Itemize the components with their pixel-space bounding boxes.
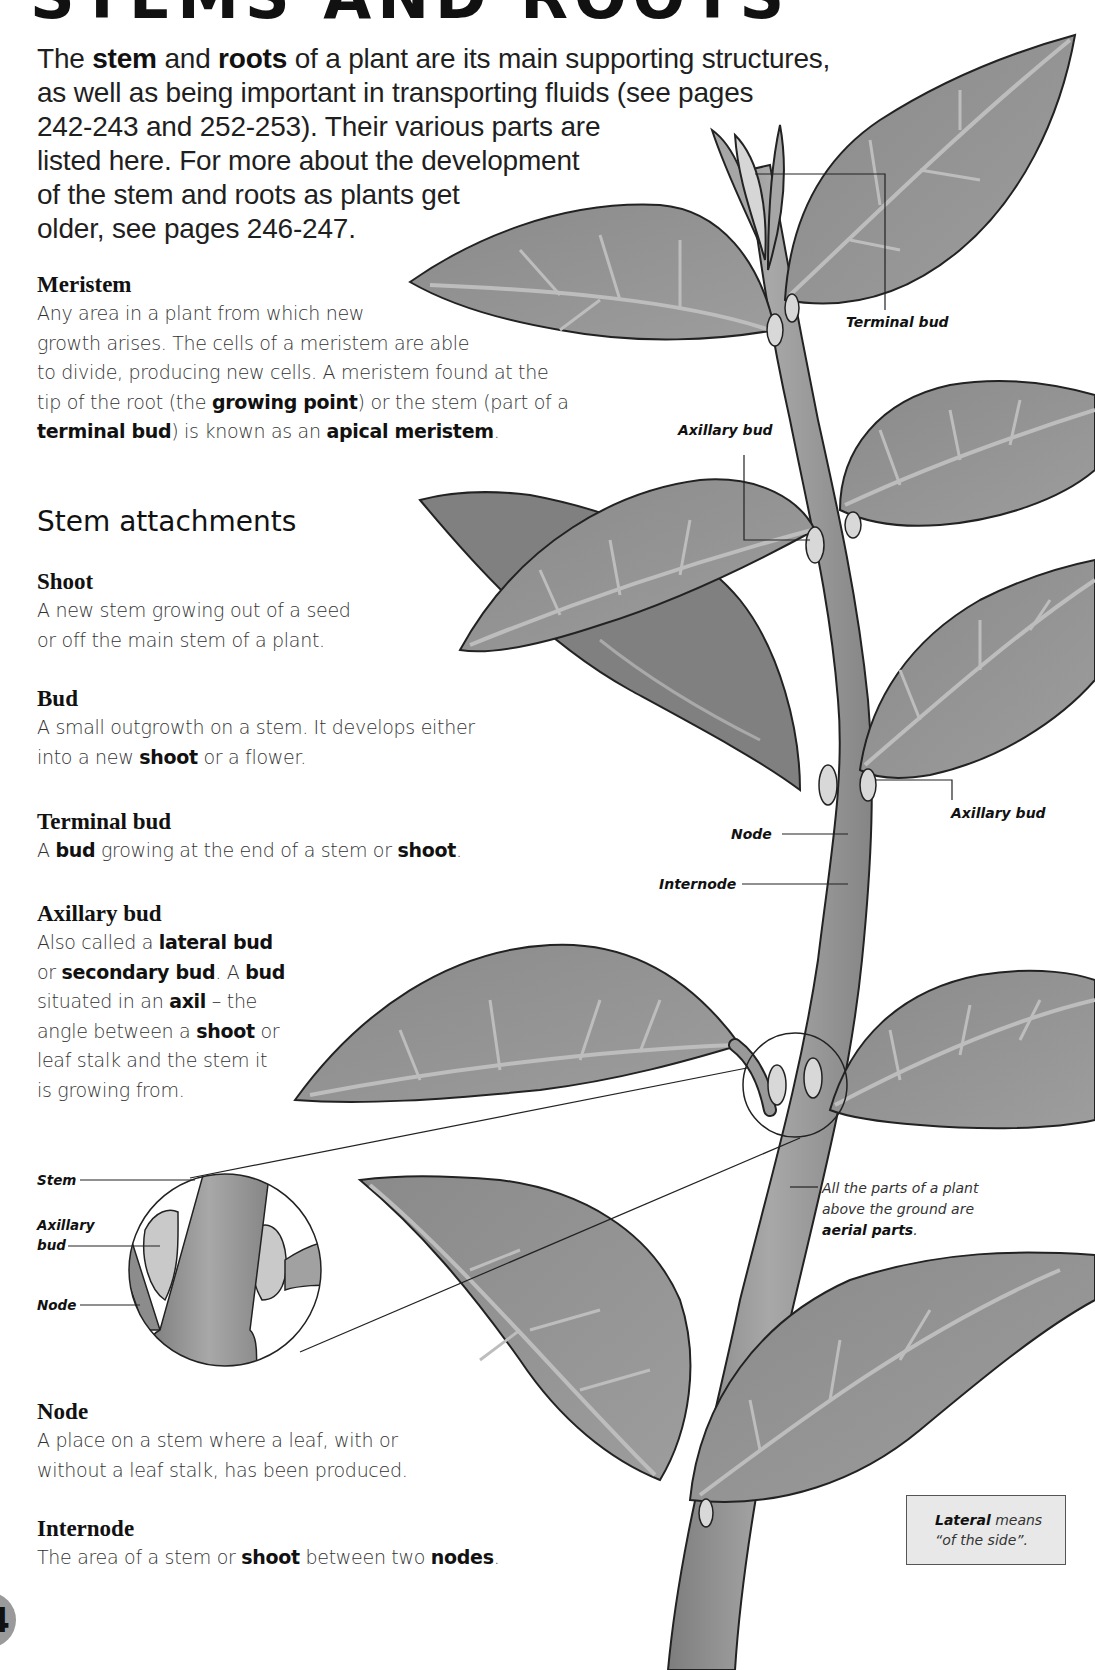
text-run: The [37, 43, 92, 74]
text-run: . [494, 420, 500, 442]
def-line: is growing from. [37, 1076, 285, 1106]
text-run: . A [215, 961, 245, 983]
bold-term: bud [245, 961, 285, 983]
bold-term: shoot [139, 746, 198, 768]
bold-term: growing point [212, 391, 358, 413]
text-run: or [37, 961, 62, 983]
text-run: ) is known as an [171, 420, 326, 442]
intro-line: 242-243 and 252-253). Their various part… [37, 110, 917, 144]
term-title: Shoot [37, 568, 351, 596]
text-run: or [255, 1020, 280, 1042]
section-title: Stem attachments [37, 505, 296, 538]
def-line: Any area in a plant from which new [37, 299, 569, 329]
caption-line: All the parts of a plant [822, 1178, 978, 1199]
note-line: “of the side”. [935, 1530, 1065, 1550]
aerial-parts-caption: All the parts of a plant above the groun… [822, 1178, 978, 1241]
label-line: bud [37, 1235, 95, 1255]
term-bud: Bud A small outgrowth on a stem. It deve… [37, 685, 475, 772]
bold-term: lateral bud [159, 931, 273, 953]
bold-term: shoot [196, 1020, 255, 1042]
term-node: Node A place on a stem where a leaf, wit… [37, 1398, 407, 1485]
term-title: Terminal bud [37, 808, 462, 836]
leaf-left-lower [295, 945, 770, 1110]
term-definition: Any area in a plant from which new growt… [37, 299, 569, 447]
label-axillary-bud-top: Axillary bud [678, 422, 773, 438]
text-run: and [157, 43, 218, 74]
inset-magnified-node [108, 1168, 340, 1390]
term-internode: Internode The area of a stem or shoot be… [37, 1515, 499, 1573]
inset-label-axillary: Axillary bud [37, 1215, 95, 1255]
bold-term: Lateral [935, 1512, 991, 1528]
label-internode: Internode [659, 876, 736, 892]
bold-term: axil [169, 990, 206, 1012]
text-run: . [494, 1546, 500, 1568]
text-run: . [456, 839, 462, 861]
textbook-page: STEMS AND ROOTS [0, 0, 1095, 1670]
def-line: A place on a stem where a leaf, with or [37, 1426, 407, 1456]
bold-term: nodes [431, 1546, 494, 1568]
text-run: into a new [37, 746, 139, 768]
def-line: situated in an axil – the [37, 987, 285, 1017]
text-run: Also called a [37, 931, 159, 953]
def-line: terminal bud) is known as an apical meri… [37, 417, 569, 447]
bold-term: stem [92, 43, 157, 74]
text-run: situated in an [37, 990, 169, 1012]
text-run: – the [206, 990, 257, 1012]
def-line: to divide, producing new cells. A merist… [37, 358, 569, 388]
term-definition: A small outgrowth on a stem. It develops… [37, 713, 475, 772]
label-node: Node [731, 826, 772, 842]
term-definition: A place on a stem where a leaf, with or … [37, 1426, 407, 1485]
text-run: of a plant are its main supporting struc… [287, 43, 830, 74]
def-line: without a leaf stalk, has been produced. [37, 1456, 407, 1486]
text-run: means [991, 1512, 1042, 1528]
def-line: tip of the root (the growing point) or t… [37, 388, 569, 418]
intro-paragraph: The stem and roots of a plant are its ma… [37, 42, 917, 246]
label-line: Axillary [37, 1215, 95, 1235]
label-axillary-bud-right: Axillary bud [951, 805, 1046, 821]
text-run: ) or the stem (part of a [358, 391, 569, 413]
bold-term: secondary bud [62, 961, 216, 983]
text-run: . [913, 1222, 917, 1238]
intro-line: of the stem and roots as plants get [37, 178, 917, 212]
caption-line: aerial parts. [822, 1220, 978, 1241]
text-run: or a flower. [198, 746, 306, 768]
bold-term: bud [55, 839, 95, 861]
def-line: A new stem growing out of a seed [37, 596, 351, 626]
def-line: into a new shoot or a flower. [37, 743, 475, 773]
term-title: Meristem [37, 271, 569, 299]
label-terminal-bud: Terminal bud [846, 314, 949, 330]
leaf-right-bottom [830, 971, 1095, 1129]
bold-term: roots [218, 43, 287, 74]
bold-term: terminal bud [37, 420, 171, 442]
leaf-right-lower [860, 560, 1095, 778]
term-meristem: Meristem Any area in a plant from which … [37, 271, 569, 447]
term-title: Node [37, 1398, 407, 1426]
def-line: The area of a stem or shoot between two … [37, 1543, 499, 1573]
term-axillary-bud: Axillary bud Also called a lateral bud o… [37, 900, 285, 1105]
def-line: or secondary bud. A bud [37, 958, 285, 988]
caption-line: above the ground are [822, 1199, 978, 1220]
text-run: growing at the end of a stem or [95, 839, 397, 861]
inset-label-node: Node [37, 1295, 76, 1315]
text-run: angle between a [37, 1020, 196, 1042]
def-line: leaf stalk and the stem it [37, 1046, 285, 1076]
def-line: growth arises. The cells of a meristem a… [37, 329, 569, 359]
def-line: angle between a shoot or [37, 1017, 285, 1047]
intro-line: older, see pages 246-247. [37, 212, 917, 246]
term-title: Internode [37, 1515, 499, 1543]
term-terminal-bud: Terminal bud A bud growing at the end of… [37, 808, 462, 866]
term-title: Axillary bud [37, 900, 285, 928]
def-line: or off the main stem of a plant. [37, 626, 351, 656]
note-line: Lateral means [935, 1510, 1065, 1530]
def-line: Also called a lateral bud [37, 928, 285, 958]
leaf-bottom-left [360, 1176, 690, 1480]
text-run: tip of the root (the [37, 391, 212, 413]
intro-line: listed here. For more about the developm… [37, 144, 917, 178]
term-title: Bud [37, 685, 475, 713]
page-number: 4 [0, 1600, 10, 1640]
leaf-right-mid [840, 381, 1095, 526]
lateral-note-box: Lateral means “of the side”. [906, 1495, 1066, 1565]
term-shoot: Shoot A new stem growing out of a seed o… [37, 568, 351, 655]
bold-term: shoot [241, 1546, 300, 1568]
text-run: A [37, 839, 55, 861]
